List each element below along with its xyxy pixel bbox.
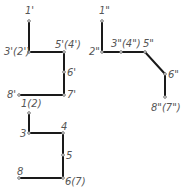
top-view-polyline — [19, 113, 63, 178]
label-1: 1(2) — [21, 98, 42, 109]
label-5-double-prime: 5" — [143, 38, 154, 49]
side-view: 1" 2" 3"(4") 5" 6" 8"(7") — [89, 5, 181, 113]
point-8 — [18, 177, 21, 180]
point-3-double-prime — [120, 51, 123, 54]
label-1-double-prime: 1" — [99, 5, 110, 16]
pipe-projection-diagram: 1' 3'(2') 5'(4') 6' 7' 8' 1" 2" 3"(4") 5… — [0, 0, 182, 188]
label-1-prime: 1' — [25, 5, 34, 16]
front-view-polyline — [19, 21, 64, 95]
label-2-double-prime: 2" — [89, 46, 100, 57]
point-8-double-prime — [164, 96, 167, 99]
label-6-double-prime: 6" — [168, 69, 179, 80]
label-4: 4 — [61, 121, 67, 132]
label-6: 6(7) — [65, 176, 86, 187]
point-6-prime — [63, 71, 66, 74]
point-2-double-prime — [101, 51, 104, 54]
label-3-double-prime: 3"(4") — [111, 38, 141, 49]
point-7-prime — [63, 94, 66, 97]
label-5-prime: 5'(4') — [55, 39, 81, 50]
point-1-prime — [28, 20, 31, 23]
label-7-prime: 7' — [67, 89, 76, 100]
front-view: 1' 3'(2') 5'(4') 6' 7' 8' — [4, 5, 81, 100]
point-3 — [28, 132, 31, 135]
point-1-double-prime — [101, 20, 104, 23]
point-8-prime — [18, 94, 21, 97]
point-5-prime — [63, 51, 66, 54]
side-view-polyline — [102, 21, 165, 97]
point-1 — [28, 112, 31, 115]
point-6 — [62, 177, 65, 180]
top-view: 1(2) 3 4 5 6(7) 8 — [17, 98, 86, 187]
label-8-double-prime: 8"(7") — [151, 102, 181, 113]
point-6-double-prime — [164, 73, 167, 76]
point-5 — [62, 154, 65, 157]
point-4 — [62, 132, 65, 135]
point-5-double-prime — [144, 51, 147, 54]
label-5: 5 — [66, 150, 72, 161]
label-8: 8 — [17, 166, 23, 177]
label-3: 3 — [20, 128, 26, 139]
label-8-prime: 8' — [7, 89, 16, 100]
label-3-prime: 3'(2') — [4, 46, 30, 57]
label-6-prime: 6' — [67, 67, 76, 78]
